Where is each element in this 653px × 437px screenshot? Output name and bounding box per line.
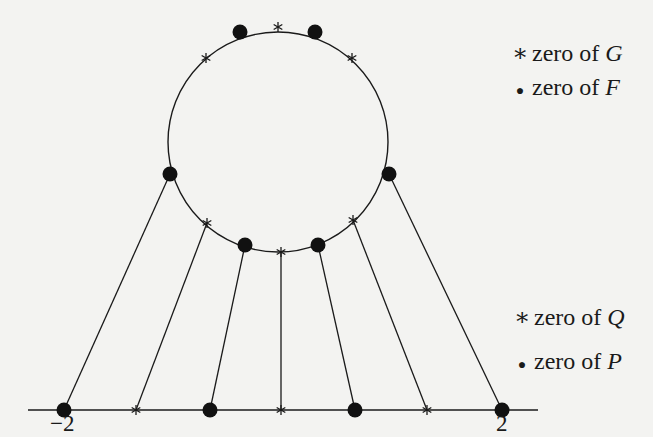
zero-f-dot-icon bbox=[311, 238, 326, 253]
legend-item-g: ∗zero of G bbox=[512, 36, 623, 70]
connector-lines bbox=[64, 174, 502, 410]
legend-top: ∗zero of G ●zero of F bbox=[512, 36, 623, 108]
zero-f-dot-icon bbox=[163, 167, 178, 182]
zero-p-dot-icon bbox=[348, 403, 363, 418]
connector-line bbox=[136, 223, 207, 410]
axis-label-two: 2 bbox=[496, 411, 508, 437]
legend-var: P bbox=[607, 348, 622, 374]
legend-var: G bbox=[605, 40, 622, 66]
legend-text: zero of bbox=[532, 40, 605, 66]
connector-line bbox=[353, 220, 427, 410]
star-icon: ∗ bbox=[514, 295, 530, 339]
connector-line bbox=[64, 174, 170, 410]
connector-line bbox=[210, 245, 245, 410]
zero-p-dot-icon bbox=[203, 403, 218, 418]
zero-f-dot-icon bbox=[238, 238, 253, 253]
legend-bottom: ∗zero of Q ●zero of P bbox=[514, 295, 625, 387]
connector-line bbox=[389, 174, 502, 410]
star-icon: ∗ bbox=[512, 36, 528, 70]
legend-text: zero of bbox=[532, 74, 605, 100]
legend-item-p: ●zero of P bbox=[514, 339, 625, 387]
dot-markers bbox=[57, 25, 510, 418]
legend-var: F bbox=[605, 74, 620, 100]
legend-text: zero of bbox=[534, 304, 607, 330]
legend-item-q: ∗zero of Q bbox=[514, 295, 625, 339]
zero-f-dot-icon bbox=[308, 25, 323, 40]
zero-f-dot-icon bbox=[382, 167, 397, 182]
dot-icon: ● bbox=[512, 74, 528, 108]
dot-icon: ● bbox=[514, 343, 530, 387]
zero-f-dot-icon bbox=[233, 25, 248, 40]
legend-var: Q bbox=[607, 304, 624, 330]
legend-text: zero of bbox=[534, 348, 607, 374]
legend-item-f: ●zero of F bbox=[512, 70, 623, 108]
connector-line bbox=[318, 245, 355, 410]
axis-label-minus-two: −2 bbox=[50, 411, 74, 437]
zero-g-star-icon bbox=[274, 22, 283, 32]
